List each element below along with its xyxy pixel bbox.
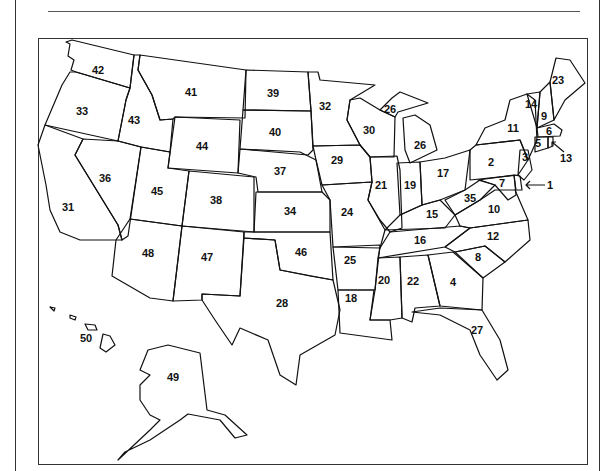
- state-label-46: 46: [295, 246, 307, 258]
- state-label-47: 47: [201, 251, 213, 263]
- state-label-21: 21: [375, 179, 387, 191]
- state-label-23: 23: [552, 74, 564, 86]
- state-25-arkansas: [333, 245, 380, 290]
- state-label-42: 42: [92, 64, 104, 76]
- state-label-8: 8: [475, 251, 481, 263]
- state-label-1: 1: [547, 179, 553, 191]
- state-label-38: 38: [210, 194, 222, 206]
- state-50-hawaii-big-island: [100, 334, 115, 352]
- state-48-arizona: [112, 219, 182, 301]
- state-47-new-mexico: [173, 226, 244, 301]
- state-label-18: 18: [345, 292, 357, 304]
- state-24-missouri: [322, 182, 385, 248]
- state-15-kentucky: [385, 200, 455, 230]
- state-label-27: 27: [471, 324, 483, 336]
- state-label-50: 50: [80, 332, 92, 344]
- state-label-44: 44: [196, 140, 208, 152]
- state-label-17: 17: [437, 167, 449, 179]
- state-label-37: 37: [274, 165, 286, 177]
- state-label-5: 5: [535, 137, 541, 149]
- state-20-mississippi: [370, 257, 402, 320]
- state-label-19: 19: [404, 179, 416, 191]
- state-label-35: 35: [464, 192, 476, 204]
- state-label-12: 12: [487, 230, 499, 242]
- state-label-31: 31: [62, 201, 74, 213]
- state-label-49: 49: [167, 371, 179, 383]
- state-label-2: 2: [488, 156, 494, 168]
- state-28-texas: [202, 238, 340, 385]
- state-label-13: 13: [560, 152, 572, 164]
- state-label-16: 16: [414, 234, 426, 246]
- state-50-hawaii-islands: [50, 307, 97, 330]
- state-label-43: 43: [128, 114, 140, 126]
- state-label-25: 25: [344, 254, 356, 266]
- arrow-to-state-1: [526, 181, 545, 189]
- state-label-22: 22: [407, 275, 419, 287]
- state-label-48: 48: [142, 247, 154, 259]
- state-label-39: 39: [267, 87, 279, 99]
- state-label-34: 34: [284, 205, 296, 217]
- state-49-alaska: [118, 345, 247, 460]
- state-label-26b: 26: [414, 139, 426, 151]
- state-label-14: 14: [525, 98, 537, 110]
- state-label-3: 3: [522, 151, 528, 163]
- state-label-6: 6: [546, 125, 552, 137]
- state-label-41: 41: [185, 86, 197, 98]
- state-label-15: 15: [426, 208, 438, 220]
- state-label-40: 40: [269, 126, 281, 138]
- state-label-36: 36: [99, 172, 111, 184]
- state-label-9: 9: [541, 110, 547, 122]
- arrow-to-state-13: [552, 142, 564, 152]
- state-36-nevada: [75, 139, 141, 240]
- state-label-26: 26: [384, 103, 396, 115]
- state-label-33: 33: [76, 105, 88, 117]
- state-label-24: 24: [341, 206, 353, 218]
- state-label-28: 28: [276, 297, 288, 309]
- state-label-11: 11: [507, 122, 519, 134]
- state-label-30: 30: [363, 124, 375, 136]
- state-27-florida: [412, 308, 508, 380]
- state-label-32: 32: [319, 100, 331, 112]
- state-label-4: 4: [450, 276, 456, 288]
- state-label-10: 10: [488, 203, 500, 215]
- state-43-idaho: [118, 55, 173, 152]
- state-label-29: 29: [331, 154, 343, 166]
- state-22-alabama: [400, 255, 440, 322]
- state-label-7: 7: [499, 177, 505, 189]
- state-23-maine: [550, 58, 585, 120]
- state-label-45: 45: [151, 185, 163, 197]
- state-label-20: 20: [378, 274, 390, 286]
